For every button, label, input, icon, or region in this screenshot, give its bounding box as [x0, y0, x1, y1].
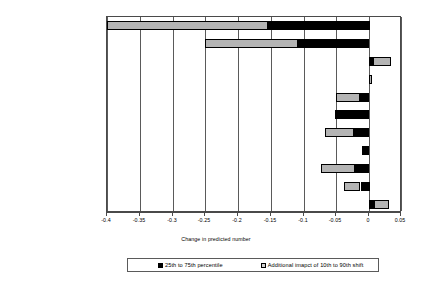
x-axis-tick-label: -0.35 [124, 217, 154, 224]
legend-entry-additional-impact: Additional imapct of 10th to 90th shift [261, 262, 364, 268]
bar-segment-additional-impact [325, 128, 354, 137]
gridline [401, 17, 402, 211]
x-axis-tick [237, 212, 238, 216]
chart-legend: 25th to 75th percentile Additional imapc… [127, 258, 379, 272]
x-axis-tick-label: -0.1 [288, 217, 318, 224]
plot-area [106, 16, 401, 212]
bar-row [107, 146, 400, 155]
x-axis-tick-label: -0.25 [189, 217, 219, 224]
bar-row [107, 128, 400, 137]
x-axis-tick [400, 212, 401, 216]
bar-segment-additional-impact [321, 164, 355, 173]
bar-segment-percentile [335, 110, 369, 119]
x-axis-tick-label: 0.05 [385, 217, 415, 224]
x-axis-tick [303, 212, 304, 216]
x-axis-tick-label: 0 [353, 217, 383, 224]
bar-segment-additional-impact [374, 200, 389, 209]
x-axis-tick [106, 212, 107, 216]
bar-segment-additional-impact [344, 182, 360, 191]
bar-row [107, 164, 400, 173]
bar-segment-percentile [369, 200, 374, 209]
bar-row [107, 21, 400, 30]
x-axis-tick-label: -0.3 [157, 217, 187, 224]
bar-segment-percentile [268, 21, 370, 30]
x-axis-tick-label: -0.15 [255, 217, 285, 224]
legend-swatch-black-icon [158, 263, 163, 268]
bar-segment-percentile [298, 39, 369, 48]
x-axis-title: Change in predicted number [0, 236, 432, 242]
x-axis-tick [270, 212, 271, 216]
bar-segment-percentile [369, 57, 373, 66]
bar-row [107, 75, 400, 84]
x-axis-tick [172, 212, 173, 216]
x-axis-tick [139, 212, 140, 216]
legend-swatch-gray-icon [261, 263, 266, 268]
bar-row [107, 200, 400, 209]
bar-segment-additional-impact [369, 75, 372, 84]
legend-label-percentile: 25th to 75th percentile [165, 262, 223, 268]
bar-segment-additional-impact [336, 93, 360, 102]
x-axis-tick-label: -0.05 [320, 217, 350, 224]
bar-segment-percentile [361, 182, 370, 191]
bar-row [107, 182, 400, 191]
x-axis-tick [204, 212, 205, 216]
x-axis-tick-label: -0.2 [222, 217, 252, 224]
bar-row [107, 57, 400, 66]
bar-row [107, 110, 400, 119]
bar-segment-additional-impact [205, 39, 298, 48]
bar-chart-figure: % President's party in CongressPresident… [0, 0, 432, 287]
bar-segment-percentile [362, 146, 369, 155]
x-axis-tick-label: -0.4 [91, 217, 121, 224]
bar-segment-percentile [355, 164, 369, 173]
legend-entry-percentile: 25th to 75th percentile [158, 262, 223, 268]
bar-row [107, 93, 400, 102]
bar-segment-additional-impact [107, 21, 268, 30]
legend-label-additional-impact: Additional imapct of 10th to 90th shift [268, 262, 364, 268]
x-axis-line [106, 212, 401, 213]
x-axis-tick [368, 212, 369, 216]
x-axis-tick [335, 212, 336, 216]
bar-segment-percentile [354, 128, 369, 137]
bar-segment-additional-impact [373, 57, 391, 66]
bar-segment-percentile [359, 93, 369, 102]
bar-row [107, 39, 400, 48]
